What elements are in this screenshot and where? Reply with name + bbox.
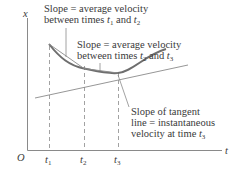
tick-label-t3: t3: [114, 154, 120, 165]
annotation-secant-t1-t2-line2: between times t1 and t2: [44, 14, 148, 25]
origin-label: O: [17, 152, 25, 163]
annotation-tangent-line2: line = instantaneous: [131, 117, 215, 128]
tick-label-t1: t1: [45, 154, 51, 165]
annotation-tangent-line1: Slope of tangent: [131, 106, 215, 117]
annotation-tangent-line3: velocity at time t3: [131, 128, 215, 139]
annotation-tangent-t3: Slope of tangent line = instantaneous ve…: [131, 106, 215, 139]
annotation-secant-t2-t3-line1: Slope = average velocity: [77, 39, 181, 50]
position-time-graph: [0, 0, 232, 178]
y-axis-label: x: [23, 8, 28, 19]
tick-label-t2: t2: [80, 154, 86, 165]
annotation-secant-t2-t3-line2: between times t2 and t3: [77, 50, 181, 61]
annotation-secant-t1-t2-line1: Slope = average velocity: [44, 3, 148, 14]
annotation-secant-t1-t2: Slope = average velocity between times t…: [44, 3, 148, 25]
leader-tangent: [118, 75, 129, 107]
x-axis-label: t: [225, 145, 228, 156]
tangent-line-t3: [35, 65, 188, 98]
annotation-secant-t2-t3: Slope = average velocity between times t…: [77, 39, 181, 61]
